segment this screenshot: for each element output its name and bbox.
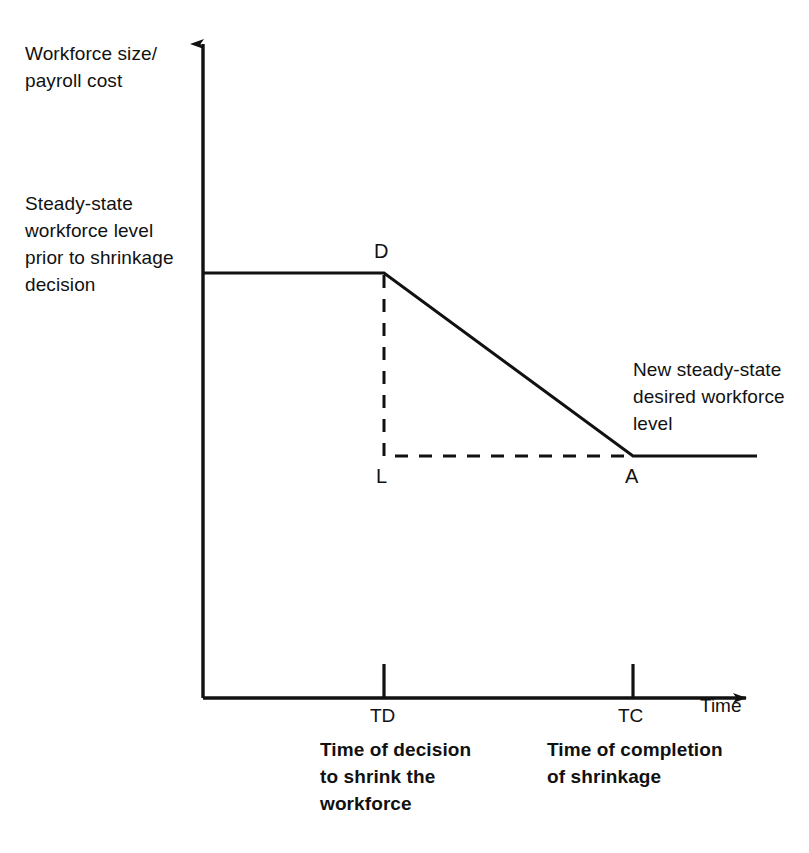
caption-time-of-completion: Time of completion of shrinkage <box>547 736 723 790</box>
caption-time-of-decision: Time of decision to shrink the workforce <box>320 736 471 817</box>
x-tick-label-td: TD <box>370 706 395 725</box>
x-tick-label-tc: TC <box>618 706 643 725</box>
point-label-d: D <box>374 241 388 261</box>
x-axis-title: Time <box>700 696 742 715</box>
steady-state-level-note: Steady-state workforce level prior to sh… <box>25 190 174 298</box>
workforce-shrinkage-diagram: Workforce size/ payroll cost Time Steady… <box>0 0 809 853</box>
point-label-l: L <box>376 466 387 486</box>
point-label-a: A <box>625 466 638 486</box>
y-axis-title: Workforce size/ payroll cost <box>25 40 157 94</box>
new-level-note: New steady-state desired workforce level <box>633 356 785 437</box>
